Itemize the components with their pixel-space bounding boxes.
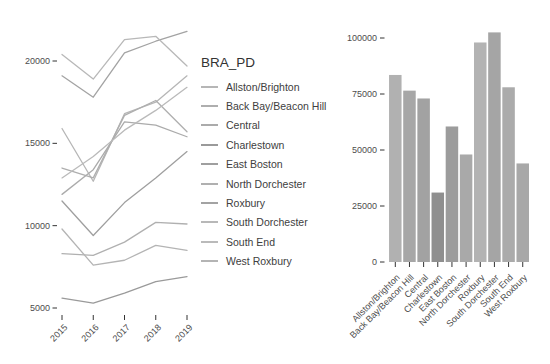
legend-key-line	[201, 260, 218, 262]
legend-key-line	[201, 144, 218, 146]
bar-east-boston	[446, 126, 459, 262]
legend-key-line	[201, 163, 218, 165]
legend-key-line	[201, 221, 218, 223]
legend-key-line	[201, 124, 218, 126]
legend-item-central: Central	[201, 116, 326, 135]
line-series-back-bay-beacon-hill	[62, 101, 187, 178]
line-series-roxbury	[62, 31, 187, 97]
legend-item-label: South Dorchester	[226, 216, 308, 228]
line-series-south-dorchester	[62, 36, 187, 79]
bar-charlestown	[432, 193, 445, 262]
legend-item-label: Central	[226, 119, 260, 131]
line-chart-y-tick-label: 5000	[30, 303, 50, 313]
legend-item-label: Allston/Brighton	[226, 81, 300, 93]
legend-key-line	[201, 202, 218, 204]
line-chart-x-tick-label: 2019	[173, 322, 194, 343]
legend-key-line	[201, 86, 218, 88]
legend-item-label: Roxbury	[226, 197, 265, 209]
legend-item-label: East Boston	[226, 158, 283, 170]
bar-back-bay-beacon-hill	[403, 91, 416, 262]
line-chart-y-tick-label: 20000	[25, 56, 50, 66]
line-series-central	[62, 122, 187, 194]
bar-chart-y-tick-label: 100000	[347, 33, 377, 43]
bar-chart-y-tick-label: 75000	[352, 89, 377, 99]
legend-item-east-boston: East Boston	[201, 155, 326, 174]
legend-item-charlestown: Charlestown	[201, 135, 326, 154]
legend-title: BRA_PD	[201, 55, 326, 70]
bar-chart-y-tick-label: 0	[372, 257, 377, 267]
bar-west-roxbury	[516, 163, 529, 262]
legend-key-line	[201, 241, 218, 243]
legend-item-label: Charlestown	[226, 139, 284, 151]
bar-chart-y-tick-label: 50000	[352, 145, 377, 155]
legend-item-label: South End	[226, 236, 275, 248]
legend-item-south-end: South End	[201, 232, 326, 251]
legend-item-south-dorchester: South Dorchester	[201, 213, 326, 232]
line-chart-y-tick-label: 10000	[25, 221, 50, 231]
bar-central	[417, 98, 430, 262]
legend-item-north-dorchester: North Dorchester	[201, 174, 326, 193]
line-chart-x-tick-label: 2017	[111, 322, 132, 343]
bar-allston-brighton	[389, 75, 402, 262]
bar-chart-y-tick-label: 25000	[352, 201, 377, 211]
legend-key-line	[201, 105, 218, 107]
legend-items: Allston/BrightonBack Bay/Beacon HillCent…	[201, 77, 326, 271]
line-chart-x-tick-label: 2015	[48, 322, 69, 343]
bar-north-dorchester	[460, 154, 473, 262]
legend-item-label: West Roxbury	[226, 255, 292, 267]
line-chart-y-tick-label: 15000	[25, 138, 50, 148]
line-series-south-end	[62, 87, 187, 178]
bar-roxbury	[474, 42, 487, 262]
line-series-west-roxbury	[62, 229, 187, 265]
legend-item-west-roxbury: West Roxbury	[201, 252, 326, 271]
line-series-charlestown	[62, 277, 187, 303]
legend-item-label: North Dorchester	[226, 178, 306, 190]
legend-item-allston-brighton: Allston/Brighton	[201, 77, 326, 96]
legend-key-line	[201, 183, 218, 185]
legend-item-roxbury: Roxbury	[201, 193, 326, 212]
legend-item-label: Back Bay/Beacon Hill	[226, 100, 326, 112]
legend-item-back-bay-beacon-hill: Back Bay/Beacon Hill	[201, 96, 326, 115]
line-chart-x-tick-label: 2016	[79, 322, 100, 343]
bar-south-end	[502, 87, 514, 262]
line-chart-x-tick-label: 2018	[142, 322, 163, 343]
legend: BRA_PD Allston/BrightonBack Bay/Beacon H…	[201, 55, 326, 271]
figure-canvas: 5000100001500020000201520162017201820190…	[0, 0, 550, 364]
bar-south-dorchester	[488, 32, 501, 262]
